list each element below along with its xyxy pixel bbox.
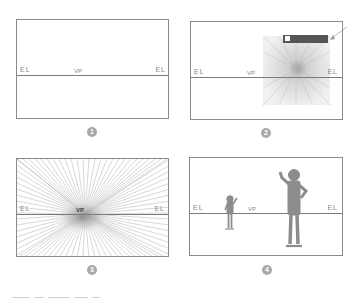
el-label-right: EL [154,205,165,212]
el-label-left: EL [20,205,31,212]
eye-level-line [17,214,168,215]
step-badge-4: 4 [262,265,272,275]
caption-strip [12,288,352,292]
figures [190,158,343,256]
vp-label: VP [74,68,82,74]
el-label-left: EL [194,68,205,75]
panel-2-frame: EL VP EL [190,21,343,120]
large-figure-icon [280,170,306,247]
step-badge-3: 3 [87,265,97,275]
eye-level-line [191,77,342,78]
vp-label: VP [76,207,84,213]
el-label-right: EL [155,66,166,73]
panel-4-frame: EL VP EL [189,157,343,256]
panel-1-frame: EL VP EL [16,19,169,119]
el-label-right: EL [327,68,338,75]
callout-bar-swatch [285,36,290,41]
eye-level-line [17,75,168,76]
vp-label: VP [247,70,255,76]
step-badge-1: 1 [87,127,97,137]
el-label-left: EL [20,66,31,73]
small-figure-icon [225,196,237,229]
panel-3-frame: EL VP EL [16,158,169,257]
callout-bar [283,35,328,43]
step-badge-2: 2 [261,128,271,138]
radial-perspective-lines [17,159,169,257]
